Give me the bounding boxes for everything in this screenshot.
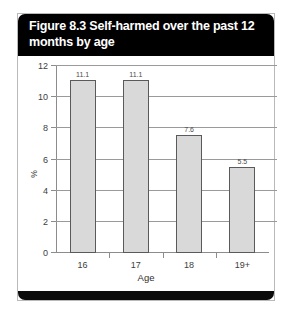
y-axis-tick-label: 4 <box>43 186 48 196</box>
figure-title-banner: Figure 8.3 Self-harmed over the past 12 … <box>18 14 274 56</box>
x-axis-tick-mark <box>109 253 110 258</box>
x-axis-tick-label: 19+ <box>235 260 250 270</box>
figure-footer-bar <box>18 291 274 300</box>
bar <box>123 80 149 253</box>
bar-value-label: 11.1 <box>129 71 142 78</box>
y-axis-tick-label: 10 <box>38 92 48 102</box>
bar-value-label: 7.6 <box>184 126 194 133</box>
y-axis-tick-label: 8 <box>43 123 48 133</box>
x-axis-tick-mark <box>216 253 217 258</box>
y-axis-tick-label: 2 <box>43 217 48 227</box>
bar-group: 11.117 <box>109 66 162 253</box>
y-axis-tick-label: 0 <box>43 248 48 258</box>
bar <box>229 167 255 253</box>
bar <box>176 135 202 253</box>
x-axis-tick-label: 16 <box>78 260 88 270</box>
y-axis-tick-label: 12 <box>38 61 48 71</box>
bar-group: 7.618 <box>163 66 216 253</box>
x-axis-tick-mark <box>163 253 164 258</box>
x-axis-tick-label: 18 <box>184 260 194 270</box>
bar-group: 11.116 <box>56 66 109 253</box>
page-title: Figure 8.3 Self-harmed over the past 12 … <box>29 19 264 50</box>
chart-plot-area: % 024681012 11.11611.1177.6185.519+ Age <box>18 56 274 291</box>
bars-layer: 11.11611.1177.6185.519+ <box>56 66 269 253</box>
y-axis-tick-label: 6 <box>43 155 48 165</box>
bar-value-label: 11.1 <box>76 71 89 78</box>
chart-axes: 024681012 11.11611.1177.6185.519+ <box>56 66 269 253</box>
y-axis-title: % <box>29 170 39 178</box>
figure-card: Figure 8.3 Self-harmed over the past 12 … <box>17 13 275 301</box>
x-axis-title: Age <box>18 272 274 283</box>
bar <box>70 80 96 253</box>
x-axis-tick-label: 17 <box>131 260 141 270</box>
bar-value-label: 5.5 <box>238 158 248 165</box>
bar-group: 5.519+ <box>216 66 269 253</box>
